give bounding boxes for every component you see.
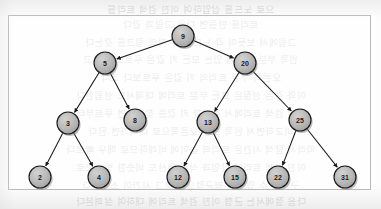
- tree-node: 20: [234, 52, 258, 76]
- tree-node: 31: [334, 166, 358, 190]
- figure-page: 으로 노드를 삽입하여 이진 검색 트리를트리를 만들면 다음 그림과 같다그림…: [0, 0, 381, 209]
- tree-edge: [117, 40, 172, 59]
- tree-node: 3: [57, 112, 81, 136]
- tree-node: 4: [88, 166, 112, 190]
- node-label: 20: [241, 60, 249, 67]
- tree-node: 8: [124, 109, 148, 133]
- tree-edge: [194, 41, 234, 58]
- tree-edge: [75, 73, 99, 113]
- node-label: 13: [204, 119, 212, 126]
- node-label: 15: [231, 174, 239, 181]
- node-label: 31: [341, 174, 349, 181]
- tree-node: 5: [94, 52, 118, 76]
- tree-edge: [283, 131, 296, 166]
- tree-edge: [46, 133, 63, 166]
- node-label: 2: [38, 174, 42, 181]
- tree-edge: [253, 71, 291, 111]
- binary-search-tree: 95203813252412152231: [0, 0, 381, 209]
- tree-node: 9: [172, 25, 196, 49]
- tree-node: 13: [197, 111, 221, 135]
- tree-node: 15: [224, 166, 248, 190]
- node-label: 9: [181, 33, 185, 40]
- tree-edge: [215, 73, 239, 112]
- node-label: 25: [296, 117, 304, 124]
- node-label: 22: [274, 174, 282, 181]
- node-label: 8: [133, 117, 137, 124]
- tree-edge: [213, 132, 229, 165]
- tree-node: 25: [289, 109, 313, 133]
- tree-nodes: 95203813252412152231: [29, 25, 358, 190]
- tree-node: 22: [267, 166, 291, 190]
- node-label: 5: [103, 60, 107, 67]
- node-label: 12: [174, 174, 182, 181]
- tree-edge: [74, 133, 93, 166]
- tree-node: 2: [29, 166, 53, 190]
- tree-edge: [184, 132, 203, 166]
- tree-edge: [307, 129, 337, 167]
- node-label: 4: [97, 174, 101, 181]
- node-label: 3: [66, 120, 70, 127]
- tree-node: 12: [167, 166, 191, 190]
- tree-edges: [46, 40, 338, 167]
- tree-edge: [110, 73, 129, 109]
